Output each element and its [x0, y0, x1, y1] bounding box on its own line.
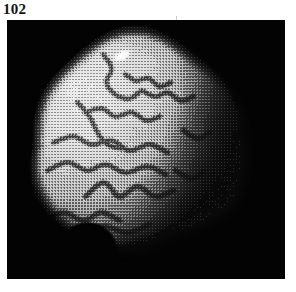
figure-plate-container: 102 [0, 0, 296, 292]
specimen-image [7, 20, 285, 279]
micrograph-plate [7, 20, 285, 279]
figure-number-label: 102 [3, 1, 26, 17]
